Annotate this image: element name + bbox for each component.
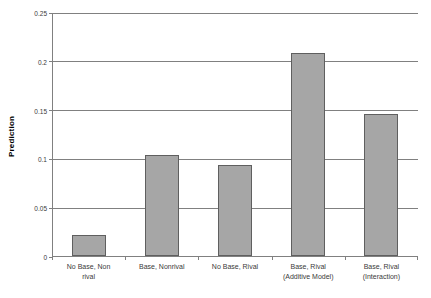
x-axis-line (52, 256, 418, 257)
y-tick-mark (49, 13, 52, 14)
y-tick-label: 0.15 (34, 107, 47, 114)
y-axis-title-text: Prediction (8, 115, 17, 156)
y-tick-label: 0.1 (38, 156, 47, 163)
x-tick-mark (125, 257, 126, 260)
y-axis-line (52, 13, 53, 257)
category-label-line: (Interaction) (337, 272, 426, 282)
gridline (52, 61, 418, 62)
bar (145, 155, 179, 257)
bar (72, 235, 106, 256)
gridline (52, 159, 418, 160)
x-tick-mark (345, 257, 346, 260)
y-tick-mark (49, 61, 52, 62)
y-tick-label: 0 (43, 254, 47, 261)
y-tick-mark (49, 110, 52, 111)
bar (291, 53, 325, 256)
y-tick-mark (49, 159, 52, 160)
gridline (52, 110, 418, 111)
x-axis-category-labels: No Base, NonrivalBase, NonrivalNo Base, … (52, 262, 418, 296)
category-label-line: Base, Rival (337, 262, 426, 272)
y-tick-label: 0.05 (34, 205, 47, 212)
y-tick-label: 0.25 (34, 10, 47, 17)
bar (218, 165, 252, 256)
category-label-line: rival (44, 272, 133, 282)
y-axis-title: Prediction (4, 96, 20, 176)
y-tick-label: 0.2 (38, 58, 47, 65)
x-tick-mark (52, 257, 53, 260)
x-tick-mark (272, 257, 273, 260)
gridline (52, 13, 418, 14)
bar (364, 114, 398, 256)
x-axis-category-label: Base, Rival(Interaction) (337, 262, 426, 282)
x-tick-mark (198, 257, 199, 260)
bar-chart: Prediction 00.050.10.150.20.25 No Base, … (0, 0, 431, 298)
x-tick-mark (417, 257, 418, 260)
y-tick-mark (49, 208, 52, 209)
plot-area: 00.050.10.150.20.25 (52, 13, 418, 257)
